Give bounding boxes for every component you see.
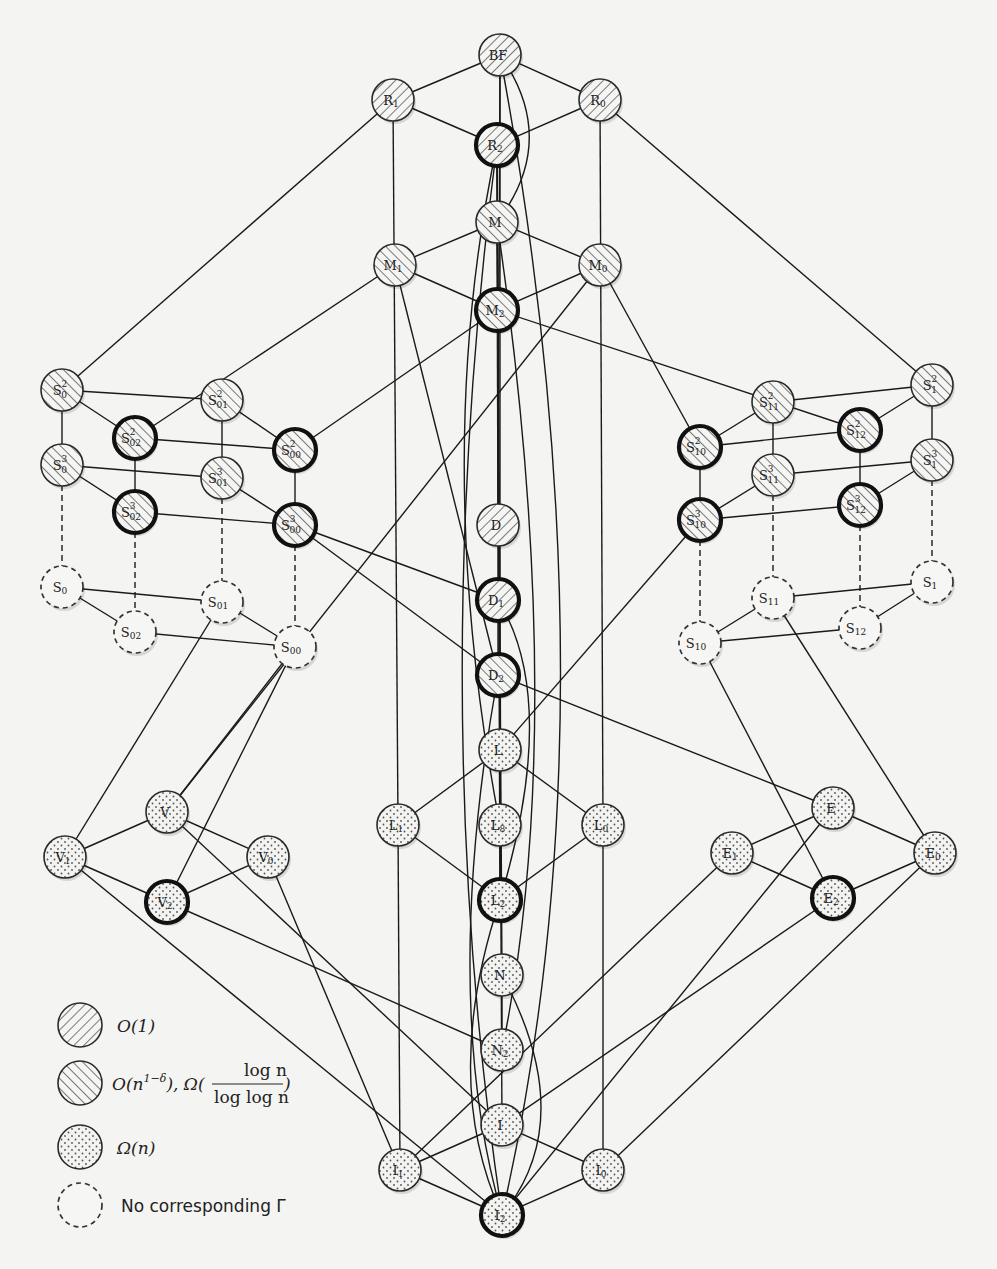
node-S02_2: S202 (114, 417, 158, 462)
edge-D2-E (498, 675, 833, 808)
edge-E0-I0 (603, 853, 935, 1170)
node-S1_3: S31 (911, 439, 955, 484)
legend-item-linear: Ω(n) (58, 1125, 155, 1169)
edge-M0-S10_2 (600, 265, 700, 447)
edge-R1-S0_2 (62, 100, 393, 390)
node-label-I: I (497, 1118, 502, 1133)
dashed-circle-swatch-icon (58, 1183, 102, 1227)
node-L8: L8 (479, 804, 523, 849)
node-E1: E1 (711, 832, 755, 877)
node-S0_2: S20 (41, 369, 85, 414)
node-S01_2: S201 (201, 379, 245, 424)
legend-label-o1: O(1) (117, 1016, 155, 1036)
node-label-S1_3: S31 (923, 449, 938, 470)
edge-S02-S00 (135, 632, 295, 647)
node-S0_3: S30 (41, 444, 85, 489)
node-S1_2: S21 (911, 364, 955, 409)
edge-S0-S01 (62, 587, 222, 602)
legend-frac-numerator: log n (244, 1060, 287, 1080)
node-L0: L0 (582, 804, 626, 849)
node-S11: S11 (752, 577, 796, 622)
hatch-left-swatch-icon (58, 1061, 102, 1105)
node-N2: N2 (481, 1029, 525, 1074)
curved-edge-N-I2 (502, 975, 541, 1215)
node-label-S0_3: S30 (53, 454, 68, 475)
node-M: M (476, 201, 520, 246)
node-S02: S02 (114, 611, 158, 656)
node-S10: S10 (679, 622, 723, 667)
node-label-M: M (488, 215, 501, 230)
node-D2: D2 (477, 654, 521, 699)
legend-item-o1: O(1) (58, 1003, 155, 1047)
node-S01: S01 (201, 581, 245, 626)
node-S10_3: S310 (679, 499, 723, 544)
complexity-lattice-diagram: BFR1R0R2MM1M0M2S20S30S202S302S201S301S20… (0, 0, 997, 1269)
legend-label-sublinear-prefix: O(n1−δ), Ω( (112, 1072, 205, 1094)
edge-S0_2-S01_2 (62, 390, 222, 400)
edge-S0_3-S01_3 (62, 465, 222, 478)
legend-label-no-gamma: No corresponding Γ (121, 1196, 286, 1216)
legend: O(1) O(n1−δ), Ω( log n log log n ) Ω(n) … (58, 1003, 291, 1227)
node-V1: V1 (44, 836, 88, 881)
node-label-S1_2: S21 (923, 374, 938, 395)
edge-E1-I1 (400, 853, 732, 1170)
node-L: L (479, 729, 523, 774)
node-E0: E0 (914, 832, 958, 877)
edge-L1-I1 (398, 825, 400, 1170)
node-R2: R2 (476, 124, 520, 169)
edge-S10_3-S12_3 (700, 505, 860, 520)
node-S12_2: S212 (839, 409, 883, 454)
node-S11_3: S311 (752, 454, 796, 499)
node-E2: E2 (812, 877, 856, 922)
node-R0: R0 (579, 79, 623, 124)
node-label-L: L (494, 743, 503, 758)
legend-frac-denominator: log log n (214, 1087, 289, 1107)
node-D: D (477, 504, 521, 549)
edge-E2-I (502, 898, 833, 1125)
node-I1: I1 (379, 1149, 423, 1194)
node-S00_2: S200 (274, 429, 318, 474)
node-V0: V0 (247, 836, 291, 881)
edge-S02_2-S00_2 (135, 438, 295, 450)
node-N: N (481, 954, 525, 999)
edge-S11-S1 (773, 582, 932, 598)
node-S0: S0 (41, 566, 85, 611)
edge-S02_3-S00_3 (135, 512, 295, 525)
node-label-V: V (159, 805, 170, 820)
curved-edge-R2-L8 (464, 145, 500, 825)
node-D1: D1 (477, 579, 521, 624)
node-S00_3: S300 (274, 504, 318, 549)
node-S12_3: S312 (839, 484, 883, 529)
node-S10_2: S210 (679, 426, 723, 471)
edge-S00-V (167, 647, 295, 812)
edge-V1-I2 (65, 857, 502, 1215)
node-R1: R1 (372, 79, 416, 124)
node-I0: I0 (582, 1149, 626, 1194)
edge-M2-S12_2 (497, 310, 860, 430)
legend-label-sublinear-suffix: ) (283, 1074, 291, 1094)
node-S11_2: S211 (752, 381, 796, 426)
edge-R1-L1 (393, 100, 398, 825)
node-L2: L2 (479, 879, 523, 924)
dots-swatch-icon (58, 1125, 102, 1169)
node-V: V (146, 791, 190, 836)
node-S01_3: S301 (201, 457, 245, 502)
node-L1: L1 (377, 804, 421, 849)
edge-V2-N2 (167, 902, 502, 1050)
edge-R0-S1_2 (600, 100, 932, 385)
node-I: I (481, 1104, 525, 1149)
edge-S11_3-S1_3 (773, 460, 932, 475)
node-S12: S12 (839, 607, 883, 652)
edge-S10-S12 (700, 628, 860, 643)
node-BF: BF (479, 34, 523, 79)
node-M1: M1 (374, 244, 418, 289)
legend-label-linear: Ω(n) (116, 1138, 155, 1158)
legend-item-no-gamma: No corresponding Γ (58, 1183, 286, 1227)
node-V2: V2 (146, 881, 190, 926)
edge-V0-I1 (268, 857, 400, 1170)
node-label-BF: BF (489, 48, 508, 63)
hatch-right-swatch-icon (58, 1003, 102, 1047)
node-S00: S00 (274, 626, 318, 671)
legend-item-sublinear: O(n1−δ), Ω( log n log log n ) (58, 1060, 291, 1107)
node-M2: M2 (476, 289, 520, 334)
